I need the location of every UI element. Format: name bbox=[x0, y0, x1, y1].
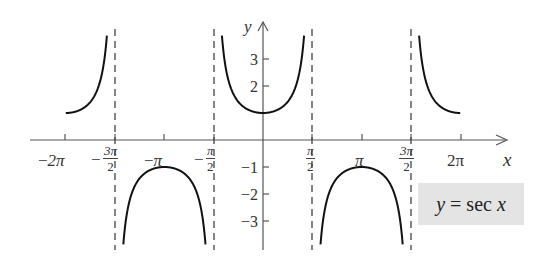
ytick-2: 2 bbox=[228, 78, 258, 96]
xtick-pi: π bbox=[355, 152, 364, 169]
y-axis-label: y bbox=[244, 18, 252, 35]
sec-branch-4 bbox=[321, 167, 403, 244]
sec-branch-1 bbox=[66, 36, 107, 113]
xtick-neg-pi2: π2 bbox=[206, 144, 215, 173]
xtick-neg-3pi2-minus: − bbox=[91, 150, 101, 170]
xtick-neg-2pi: −2π bbox=[38, 152, 65, 169]
xtick-3pi2: 3π2 bbox=[399, 144, 414, 173]
ytick-neg2: −2 bbox=[228, 186, 258, 204]
xtick-pi2: π2 bbox=[306, 144, 315, 173]
sec-branch-5 bbox=[419, 36, 460, 113]
ytick-neg1: −1 bbox=[228, 159, 258, 177]
legend-x: x bbox=[497, 193, 506, 216]
xtick-neg-pi: −π bbox=[144, 152, 162, 169]
legend-box: y = sec x bbox=[418, 183, 524, 225]
ytick-3: 3 bbox=[228, 51, 258, 69]
xtick-neg-3pi2: 3π2 bbox=[103, 144, 118, 173]
legend-y: y bbox=[436, 193, 445, 216]
sec-branch-2 bbox=[123, 167, 205, 244]
x-axis-label: x bbox=[503, 150, 511, 169]
xtick-2pi: 2π bbox=[447, 152, 464, 169]
legend-eq: = sec bbox=[445, 193, 497, 216]
ytick-neg3: −3 bbox=[228, 213, 258, 231]
xtick-neg-pi2-minus: − bbox=[194, 150, 204, 170]
